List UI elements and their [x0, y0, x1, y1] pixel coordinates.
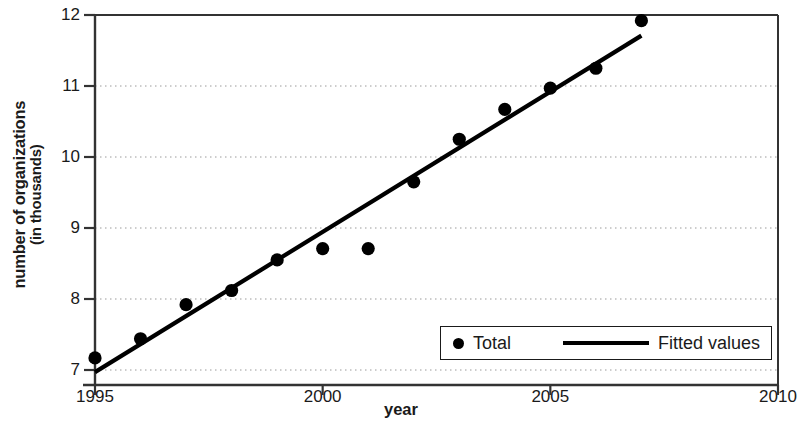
legend-label-total: Total [473, 333, 511, 354]
x-axis-title: year [0, 400, 802, 419]
legend-entry-total: Total [453, 327, 511, 359]
fitted-line [95, 36, 641, 373]
legend-entry-fitted-values: Fitted values [563, 327, 760, 359]
chart-legend: Total Fitted values [440, 326, 772, 360]
data-points [88, 14, 648, 364]
legend-label-fitted-values: Fitted values [658, 333, 760, 354]
plot-area [0, 0, 802, 430]
legend-marker-dot-icon [453, 338, 464, 349]
chart-figure: number of organizations (in thousands) 7… [0, 0, 802, 430]
legend-marker-line-icon [563, 341, 649, 345]
